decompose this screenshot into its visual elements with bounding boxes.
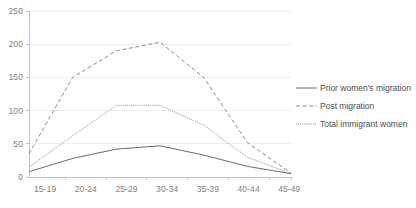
y-tick-marks [26, 11, 29, 177]
ytick-label-100: 100 [9, 106, 24, 116]
axes [29, 11, 291, 177]
xtick-label-6: 40-44 [237, 184, 259, 194]
gridlines [29, 11, 291, 144]
x-axis-tick-labels: 15-19 20-24 25-29 30-34 35-39 40-44 45-4… [34, 184, 301, 194]
x-tick-marks [66, 177, 292, 180]
ytick-label-50: 50 [13, 139, 23, 149]
legend: Prior women's migration Post migration T… [296, 83, 411, 129]
series-line-prior-womens-migration [29, 146, 291, 174]
series-line-total-immigrant-women [29, 105, 291, 173]
xtick-label-5: 35-39 [197, 184, 219, 194]
ytick-label-150: 150 [9, 72, 24, 82]
legend-label-total-immigrant-women: Total immigrant women [320, 119, 408, 129]
line-chart: 250 200 150 100 50 0 15-19 20-24 25-29 3… [0, 0, 416, 208]
chart-canvas: 250 200 150 100 50 0 15-19 20-24 25-29 3… [0, 0, 416, 208]
series-line-post-migration [29, 42, 291, 173]
y-axis-tick-labels: 250 200 150 100 50 0 [9, 6, 24, 182]
xtick-label-1: 15-19 [34, 184, 56, 194]
series-group [29, 42, 291, 173]
ytick-label-200: 200 [9, 39, 24, 49]
xtick-label-2: 20-24 [75, 184, 97, 194]
ytick-label-250: 250 [9, 6, 24, 16]
xtick-label-3: 25-29 [115, 184, 137, 194]
xtick-label-4: 30-34 [156, 184, 178, 194]
xtick-label-7: 45-49 [278, 184, 300, 194]
legend-label-prior-womens-migration: Prior women's migration [320, 83, 411, 93]
legend-label-post-migration: Post migration [320, 101, 375, 111]
ytick-label-0: 0 [18, 172, 23, 182]
